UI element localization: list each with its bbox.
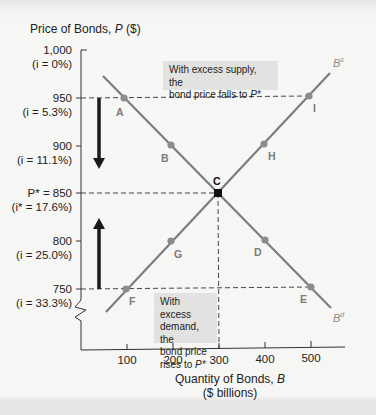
- label-b: B: [161, 152, 169, 164]
- y-tick-800: 800(i = 25.0%): [16, 235, 72, 262]
- supply-curve-label: Bs: [333, 56, 344, 69]
- y-tick-750: 750(i = 33.3%): [16, 283, 72, 310]
- equilibrium-point: [214, 189, 222, 197]
- label-d: D: [254, 246, 262, 258]
- point-i: [305, 92, 312, 99]
- label-h: H: [268, 150, 276, 162]
- point-e: [307, 283, 314, 290]
- label-f: F: [129, 295, 135, 307]
- x-tick-300: 300: [209, 354, 228, 366]
- label-c: C: [213, 175, 221, 187]
- y-tick-850: P* = 850(i* = 17.6%): [12, 187, 72, 214]
- y-tick-950: 950(i = 5.3%): [22, 92, 72, 119]
- label-e: E: [300, 293, 307, 305]
- y-tick-900: 900(i = 11.1%): [17, 140, 72, 167]
- x-axis-title: Quantity of Bonds, B ($ billions): [170, 372, 290, 400]
- x-tick-400: 400: [255, 353, 274, 365]
- x-tick-500: 500: [301, 352, 320, 364]
- price-fall-arrow: [93, 98, 105, 169]
- x-tick-100: 100: [117, 354, 136, 366]
- point-d: [261, 236, 268, 243]
- point-h: [260, 140, 267, 147]
- x-tick-200: 200: [163, 354, 182, 366]
- label-g: G: [174, 248, 182, 260]
- demand-curve-label: Bd: [333, 311, 344, 324]
- point-a: [120, 94, 127, 101]
- point-f: [122, 285, 129, 292]
- y-tick-1000: 1,000(i = 0%): [32, 44, 72, 71]
- point-b: [167, 141, 174, 148]
- chart-page: Price of Bonds, P ($) 1,000(i = 0%) 950(…: [0, 0, 376, 415]
- y-axis: [75, 50, 87, 350]
- label-i: I: [313, 102, 316, 114]
- point-g: [167, 237, 174, 244]
- price-rise-arrow: [93, 218, 105, 289]
- label-a: A: [116, 106, 124, 118]
- excess-demand-note: With excess demand, the bond price rises…: [154, 293, 217, 343]
- excess-supply-note: With excess supply, the bond price falls…: [163, 61, 278, 90]
